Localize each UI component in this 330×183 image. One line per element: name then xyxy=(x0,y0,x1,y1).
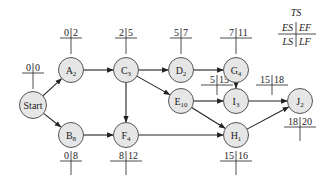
edge-start-B xyxy=(44,113,61,127)
node-I: I3 xyxy=(224,89,249,114)
time-label-start: 00 xyxy=(22,62,44,89)
node-E: E10 xyxy=(169,89,194,114)
legend-ts: TS xyxy=(291,7,302,18)
es-value: 0 xyxy=(26,62,31,73)
ef-value: 2 xyxy=(73,27,78,38)
node-G: G4 xyxy=(224,58,249,83)
edge-H-J xyxy=(247,107,288,129)
nodes-layer: StartA2B8C3D2E10F4G4H1I3J2 xyxy=(20,58,313,148)
node-F: F4 xyxy=(114,123,139,148)
es-value: 18 xyxy=(288,116,298,127)
time-label-F: 812 xyxy=(110,150,142,175)
time-label-I: 1518 xyxy=(256,74,288,95)
legend-lf: LF xyxy=(298,36,312,47)
es-value: 2 xyxy=(119,27,124,38)
node-start: Start xyxy=(20,92,47,119)
es-value: 7 xyxy=(229,27,234,38)
node-C: C3 xyxy=(114,58,139,83)
es-value: 8 xyxy=(119,150,124,161)
time-label-A: 02 xyxy=(60,27,82,54)
legend-es: ES xyxy=(281,22,293,33)
ef-value: 0 xyxy=(35,62,40,73)
es-value: 5 xyxy=(174,27,179,38)
ef-value: 12 xyxy=(128,150,138,161)
ef-value: 18 xyxy=(274,74,284,85)
edge-C-E xyxy=(137,76,170,94)
node-label: Start xyxy=(24,100,43,111)
edge-start-A xyxy=(43,79,62,96)
time-label-C: 25 xyxy=(115,27,137,54)
ef-value: 20 xyxy=(302,116,312,127)
ef-value: 7 xyxy=(183,27,188,38)
legend-ls: LS xyxy=(281,36,293,47)
network-diagram: 0002082557515812711151615181820 StartA2B… xyxy=(0,0,330,183)
es-value: 5 xyxy=(210,74,215,85)
edges-layer xyxy=(43,70,289,135)
time-label-J: 1820 xyxy=(284,116,316,141)
ef-value: 5 xyxy=(128,27,133,38)
node-J: J2 xyxy=(288,89,313,114)
legend-ef: EF xyxy=(298,22,312,33)
node-D: D2 xyxy=(169,58,194,83)
es-value: 15 xyxy=(260,74,270,85)
node-H: H1 xyxy=(224,123,249,148)
es-value: 15 xyxy=(224,150,234,161)
time-label-D: 57 xyxy=(170,27,192,54)
ef-value: 16 xyxy=(238,150,248,161)
ef-value: 11 xyxy=(238,27,248,38)
node-B: B8 xyxy=(59,123,84,148)
edge-E-H xyxy=(192,108,225,129)
es-value: 0 xyxy=(64,150,69,161)
legend: TS ES EF LS LF xyxy=(278,7,316,47)
ef-value: 8 xyxy=(73,150,78,161)
time-label-G: 711 xyxy=(220,27,252,54)
node-A: A2 xyxy=(59,58,84,83)
time-label-H: 1516 xyxy=(220,150,252,175)
time-label-B: 08 xyxy=(60,150,82,175)
es-value: 0 xyxy=(64,27,69,38)
